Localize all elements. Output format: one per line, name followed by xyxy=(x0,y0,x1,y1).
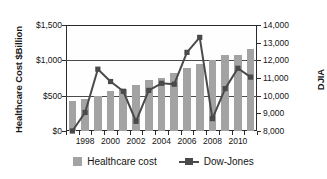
y-axis-right-tick-labels: 8,0009,00010,00011,00012,00013,00014,000 xyxy=(263,25,307,131)
x-axis-tick xyxy=(66,131,67,135)
legend-label-dow-jones: Dow-Jones xyxy=(204,156,254,167)
x-axis-tick xyxy=(142,131,143,135)
plot-area xyxy=(66,25,257,131)
x-axis-tick xyxy=(219,131,220,135)
x-axis-tick xyxy=(117,131,118,135)
x-axis-tick xyxy=(206,131,207,135)
x-axis-tick-label: 2006 xyxy=(177,136,196,146)
y-axis-right-tick xyxy=(257,113,261,114)
x-axis-tick-label: 2000 xyxy=(101,136,120,146)
legend-item-dow-jones: Dow-Jones xyxy=(179,156,254,167)
y-axis-right-tick xyxy=(257,78,261,79)
x-axis-tick xyxy=(181,131,182,135)
dow-jones-marker xyxy=(197,35,202,40)
dow-jones-marker xyxy=(146,88,151,93)
y-axis-left-tick-label: $0 xyxy=(20,126,62,136)
chart-legend: Healthcare cost Dow-Jones xyxy=(0,156,327,167)
x-axis-tick xyxy=(244,131,245,135)
y-axis-right-tick-label: 12,000 xyxy=(263,55,307,65)
x-axis-tick xyxy=(193,131,194,135)
dow-jones-marker xyxy=(133,119,138,124)
y-axis-right-tick-label: 14,000 xyxy=(263,20,307,30)
y-axis-left-tick xyxy=(62,25,66,26)
dow-jones-marker xyxy=(172,82,177,87)
dow-jones-marker xyxy=(184,50,189,55)
x-axis-tick xyxy=(155,131,156,135)
line-series-dow-jones xyxy=(66,25,257,131)
dow-jones-marker xyxy=(95,67,100,72)
x-axis-tick xyxy=(130,131,131,135)
x-axis-tick xyxy=(79,131,80,135)
dow-jones-marker xyxy=(159,81,164,86)
y-axis-right-tick-label: 9,000 xyxy=(263,108,307,118)
x-axis-tick xyxy=(91,131,92,135)
dow-jones-marker xyxy=(248,75,253,80)
dow-jones-marker xyxy=(108,79,113,84)
y-axis-left-tick-label: $1,000 xyxy=(20,55,62,65)
dow-jones-marker xyxy=(70,128,75,133)
dow-jones-marker xyxy=(235,66,240,71)
y-axis-left-tick xyxy=(62,96,66,97)
y-axis-right-tick xyxy=(257,60,261,61)
legend-swatch-bar-icon xyxy=(73,157,82,166)
legend-item-healthcare-cost: Healthcare cost xyxy=(73,156,156,167)
y-axis-left-tick-label: $1,500 xyxy=(20,20,62,30)
x-axis-tick-label: 2010 xyxy=(228,136,247,146)
x-axis-tick-label: 1998 xyxy=(76,136,95,146)
dow-jones-marker xyxy=(83,110,88,115)
legend-label-healthcare-cost: Healthcare cost xyxy=(87,156,156,167)
y-axis-right-tick-label: 10,000 xyxy=(263,91,307,101)
x-axis-tick-labels: 1998200020022004200620082010 xyxy=(66,136,257,150)
x-axis-tick xyxy=(104,131,105,135)
y-axis-left-tick xyxy=(62,60,66,61)
dow-jones-marker xyxy=(223,86,228,91)
x-axis-tick-label: 2002 xyxy=(127,136,146,146)
dow-jones-marker xyxy=(210,116,215,121)
y-axis-right-tick-label: 8,000 xyxy=(263,126,307,136)
y-axis-right-tick xyxy=(257,25,261,26)
dow-jones-marker xyxy=(121,89,126,94)
x-axis-tick xyxy=(257,131,258,135)
chart-container: Healthcare Cost $Billion DJIA $0$500$1,0… xyxy=(0,0,327,179)
x-axis-tick xyxy=(232,131,233,135)
y-axis-left-tick-label: $500 xyxy=(20,91,62,101)
y-axis-left-tick-labels: $0$500$1,000$1,500 xyxy=(20,25,62,131)
x-axis-tick-label: 2008 xyxy=(203,136,222,146)
y-axis-right-tick xyxy=(257,96,261,97)
y-axis-right-title: DJIA xyxy=(315,19,326,141)
y-axis-right-tick xyxy=(257,43,261,44)
y-axis-right-tick-label: 13,000 xyxy=(263,38,307,48)
legend-swatch-line-icon xyxy=(179,157,199,166)
x-axis-tick-label: 2004 xyxy=(152,136,171,146)
y-axis-right-tick-label: 11,000 xyxy=(263,73,307,83)
x-axis-tick xyxy=(168,131,169,135)
